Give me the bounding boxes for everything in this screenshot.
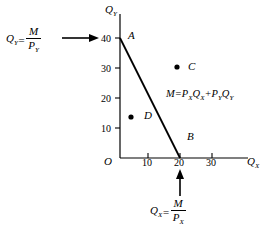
budget-constraint-line: [120, 38, 180, 158]
data-point-c: [174, 64, 179, 69]
y-intercept-arrow-head: [89, 34, 99, 42]
budget-constraint-figure: QY = M PY QX = M PX M=PXQX+PYQY QY QX O …: [0, 0, 269, 230]
figure-canvas: [0, 0, 269, 230]
x-intercept-arrow-head: [176, 169, 184, 179]
data-point-d: [128, 114, 133, 119]
